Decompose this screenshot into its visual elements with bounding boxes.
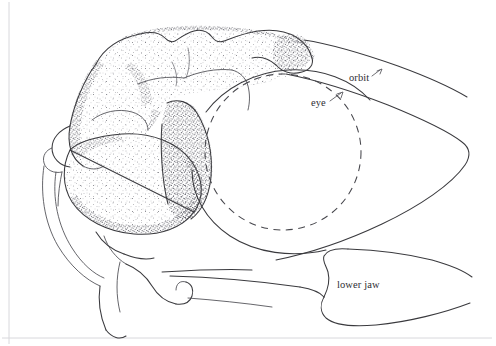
snout-lower-line xyxy=(276,74,469,260)
occipital-processes xyxy=(43,126,70,206)
quadrate-outline xyxy=(96,232,154,338)
stipple-shading xyxy=(58,18,330,242)
articular-outline xyxy=(126,264,193,304)
skull-illustration xyxy=(0,0,496,346)
figure-root: orbit eye lower jaw xyxy=(0,0,496,346)
orbit-leader xyxy=(372,70,380,76)
label-eye: eye xyxy=(311,98,326,109)
eye-leader xyxy=(330,93,341,101)
label-lower-jaw: lower jaw xyxy=(337,280,380,291)
eye-outline xyxy=(205,74,361,230)
lower-jaw-outline xyxy=(162,249,472,326)
orbit-rim xyxy=(192,70,370,254)
label-orbit: orbit xyxy=(349,73,369,84)
